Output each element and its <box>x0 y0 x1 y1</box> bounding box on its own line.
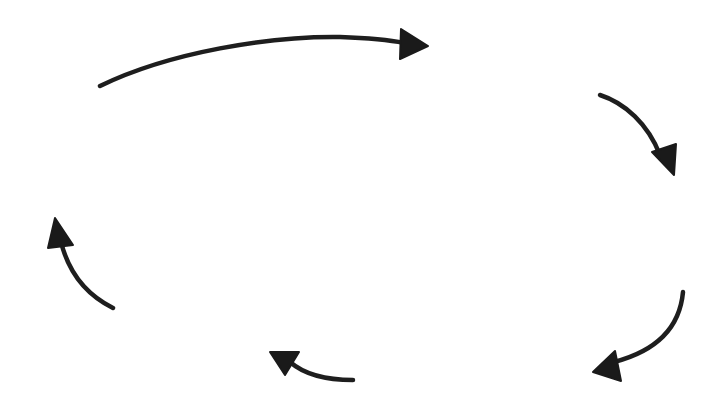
arrow-right-lower <box>593 292 683 381</box>
arrow-right-upper <box>600 95 676 175</box>
arrow-left-head-icon <box>48 218 73 248</box>
arrow-right-upper-shaft <box>600 95 660 155</box>
arrow-bottom-shaft <box>290 362 353 380</box>
arrow-left-shaft <box>61 242 113 308</box>
arrow-top-head-icon <box>400 29 428 59</box>
arrow-left <box>48 218 113 308</box>
arrow-right-lower-shaft <box>614 292 683 362</box>
arrow-top <box>100 29 428 86</box>
cycle-diagram <box>0 0 713 398</box>
arrow-bottom <box>270 352 353 380</box>
arrow-right-lower-head-icon <box>593 351 621 381</box>
arrow-top-shaft <box>100 37 404 86</box>
